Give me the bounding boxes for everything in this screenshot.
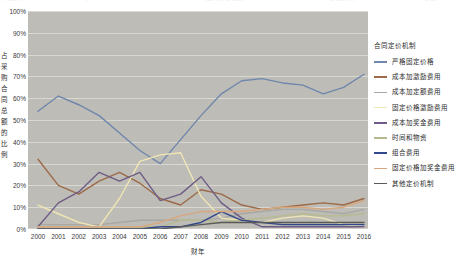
x-axis-tick-label: 2016 — [357, 233, 371, 240]
x-axis-tick-label: 2012 — [275, 233, 289, 240]
chart-screenshot: · ···· · · ···· · ·· ·· ····· ·· ···· ··… — [0, 0, 469, 264]
header-fragment: ·· ··· — [424, 0, 437, 3]
legend-title: 合同定价机制 — [374, 40, 469, 50]
legend-color-swatch — [374, 168, 387, 170]
x-axis-tick-label: 2009 — [214, 233, 228, 240]
y-axis-tick-label: 30% — [0, 160, 26, 167]
legend-color-swatch — [374, 152, 387, 154]
series-lines — [28, 11, 368, 229]
x-axis-tick-label: 2006 — [153, 233, 167, 240]
y-axis-tick-label: 60% — [0, 95, 26, 102]
y-axis-tick-label: 100% — [0, 8, 26, 15]
legend-item-label: 时间和物资 — [392, 134, 427, 142]
header-fragment: · — [86, 0, 88, 3]
y-axis-tick-label: 10% — [0, 204, 26, 211]
legend-color-swatch — [374, 107, 387, 109]
x-axis-tick-label: 2005 — [133, 233, 147, 240]
y-axis-tick-label: 70% — [0, 73, 26, 80]
legend-color-swatch — [374, 122, 387, 124]
x-axis-tick-label: 2010 — [235, 233, 249, 240]
legend-item[interactable]: 固定价格激励费用 — [374, 100, 469, 115]
legend-items: 严格固定价格成本加激励费用成本加定额费用固定价格激励费用成本加奖金费用时间和物资… — [374, 55, 469, 192]
legend-color-swatch — [374, 92, 387, 94]
legend-item-label: 严格固定价格 — [392, 58, 434, 66]
legend-item[interactable]: 其他定价机制 — [374, 176, 469, 191]
legend-item-label: 固定价格加奖金费用 — [392, 164, 455, 172]
legend-item[interactable]: 成本加激励费用 — [374, 70, 469, 85]
x-axis-tick-label: 2002 — [72, 233, 86, 240]
legend-item[interactable]: 成本加奖金费用 — [374, 115, 469, 130]
legend-color-swatch — [374, 137, 387, 139]
x-axis-tick-label: 2008 — [194, 233, 208, 240]
legend-item-label: 成本加奖金费用 — [392, 119, 441, 127]
y-axis-tick-label: 50% — [0, 117, 26, 124]
legend-item[interactable]: 固定价格加奖金费用 — [374, 161, 469, 176]
x-axis-ticks: 2000200120022003200420052006200720082009… — [28, 233, 368, 243]
legend-item-label: 组合费用 — [392, 149, 420, 157]
y-axis-tick-label: 80% — [0, 51, 26, 58]
legend-color-swatch — [374, 61, 387, 63]
legend-item-label: 固定价格激励费用 — [392, 104, 448, 112]
x-axis-tick-label: 2013 — [296, 233, 310, 240]
y-axis-ticks: 0%10%20%30%40%50%60%70%80%90%100% — [0, 11, 26, 229]
legend-color-swatch — [374, 76, 387, 78]
x-axis-tick-label: 2001 — [51, 233, 65, 240]
cutoff-header-strip: · ···· · · ···· · ·· ·· ····· ·· ···· ··… — [0, 0, 469, 8]
legend-item-label: 其他定价机制 — [392, 180, 434, 188]
legend-item[interactable]: 时间和物资 — [374, 130, 469, 145]
header-fragment: ···· · ·· ·· ····· — [205, 0, 243, 3]
x-axis-tick-label: 2007 — [173, 233, 187, 240]
y-axis-tick-label: 20% — [0, 182, 26, 189]
x-axis-tick-label: 2004 — [112, 233, 126, 240]
y-axis-tick-label: 90% — [0, 29, 26, 36]
series-line — [38, 74, 364, 163]
legend-item[interactable]: 严格固定价格 — [374, 55, 469, 70]
x-axis-tick-label: 2000 — [31, 233, 45, 240]
legend-item[interactable]: 组合费用 — [374, 146, 469, 161]
legend-color-swatch — [374, 183, 387, 185]
legend-item-label: 成本加定额费用 — [392, 88, 441, 96]
series-line — [38, 172, 364, 227]
y-axis-tick-label: 0% — [0, 226, 26, 233]
header-fragment: ·· ···· ·· · — [330, 0, 355, 3]
header-fragment: · ···· · — [4, 0, 21, 3]
legend-item-label: 成本加激励费用 — [392, 73, 441, 81]
x-axis-tick-label: 2003 — [92, 233, 106, 240]
series-line — [38, 222, 364, 229]
x-axis-tick-label: 2011 — [255, 233, 269, 240]
plot-area — [28, 11, 368, 229]
x-axis-tick-label: 2014 — [316, 233, 330, 240]
legend: 合同定价机制 严格固定价格成本加激励费用成本加定额费用固定价格激励费用成本加奖金… — [374, 40, 469, 191]
x-axis-tick-label: 2015 — [336, 233, 350, 240]
legend-item[interactable]: 成本加定额费用 — [374, 85, 469, 100]
x-axis-label: 财年 — [28, 246, 368, 256]
y-axis-tick-label: 40% — [0, 138, 26, 145]
